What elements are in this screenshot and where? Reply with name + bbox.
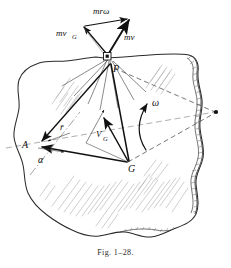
label-omega: ω bbox=[152, 97, 159, 108]
label-alpha: α bbox=[38, 154, 44, 165]
label-point-P: P bbox=[112, 63, 119, 74]
label-mvG: mv bbox=[56, 28, 67, 38]
vector-triangle-guide bbox=[84, 28, 104, 54]
label-VG-subscript: G bbox=[103, 135, 108, 142]
figure-caption-text: Fig. 1–28. bbox=[97, 248, 134, 257]
vector-mvG bbox=[84, 27, 106, 53]
label-mv: mv bbox=[124, 32, 135, 42]
rigid-body-outline bbox=[14, 54, 204, 237]
body-boundary bbox=[14, 54, 204, 237]
figure-caption: Fig. 1–28. bbox=[0, 246, 231, 257]
label-mvG-subscript: G bbox=[72, 33, 77, 40]
point-P-square-marker bbox=[104, 53, 112, 61]
label-point-G: G bbox=[128, 163, 135, 174]
rigid-body-diagram: mrω mv G mv P G A V G r̄ α ω bbox=[0, 0, 231, 268]
momentum-vector-triangle bbox=[84, 19, 129, 54]
figure-container: mrω mv G mv P G A V G r̄ α ω Fig. 1–28. bbox=[0, 0, 231, 268]
vector-mr-omega bbox=[85, 19, 127, 26]
axis-point-marker bbox=[214, 110, 218, 114]
label-point-A: A bbox=[21, 139, 29, 150]
label-mr-omega: mrω bbox=[93, 6, 109, 16]
